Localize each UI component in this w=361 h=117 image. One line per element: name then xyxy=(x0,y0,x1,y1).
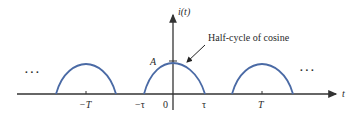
pulse-center xyxy=(144,63,205,94)
ellipsis-left: . . . xyxy=(25,63,39,75)
annotation-label: Half-cycle of cosine xyxy=(208,32,290,43)
pulse-left xyxy=(56,64,116,94)
diagram-canvas: i(t) t A Half-cycle of cosine . . . . . … xyxy=(0,0,361,117)
tick-label-minus-T: −T xyxy=(79,99,93,110)
amplitude-label: A xyxy=(149,56,157,67)
tick-label-minus-tau: −τ xyxy=(135,99,145,110)
annotation-arrow xyxy=(187,45,205,62)
y-axis-label: i(t) xyxy=(178,6,191,18)
tick-label-tau: τ xyxy=(202,99,206,110)
ellipsis-right: . . . xyxy=(300,61,314,73)
tick-label-zero: 0 xyxy=(163,99,168,110)
pulse-right xyxy=(232,64,293,94)
tick-label-T: T xyxy=(258,99,265,110)
signal-plot: i(t) t A Half-cycle of cosine . . . . . … xyxy=(0,0,361,117)
x-axis-label: t xyxy=(342,88,345,99)
